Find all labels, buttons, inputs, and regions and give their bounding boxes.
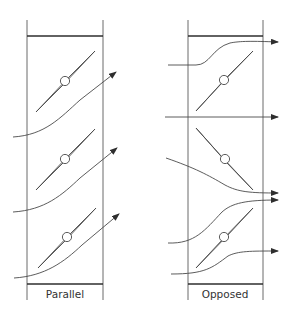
parallel-blade-2 [36,129,95,190]
pivot-icon [220,154,229,163]
damper-diagram: Parallel Opposed [0,0,292,312]
pivot-icon [60,76,69,85]
pivot-icon [219,232,228,241]
parallel-label: Parallel [46,288,84,300]
pivot-icon [219,75,228,84]
opposed-blade-1 [196,51,253,111]
opposed-blade-2 [196,128,253,190]
parallel-blade-3 [38,208,96,268]
opposed-flow-arrow-3 [166,158,278,193]
parallel-blade-1 [36,51,95,112]
pivot-icon [62,232,71,241]
opposed-panel: Opposed [165,20,278,300]
opposed-flow-arrow-5 [171,251,278,274]
opposed-label: Opposed [202,288,249,300]
pivot-icon [60,154,69,163]
parallel-panel: Parallel [13,20,119,300]
opposed-flow-arrow-1 [168,41,278,65]
